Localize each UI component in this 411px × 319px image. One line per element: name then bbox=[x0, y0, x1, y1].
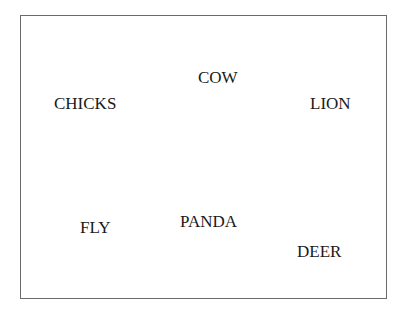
word-panda: PANDA bbox=[180, 213, 237, 230]
word-chicks: CHICKS bbox=[54, 95, 116, 112]
word-fly: FLY bbox=[80, 219, 110, 236]
word-deer: DEER bbox=[297, 243, 341, 260]
word-lion: LION bbox=[310, 95, 351, 112]
word-cow: COW bbox=[198, 69, 238, 86]
